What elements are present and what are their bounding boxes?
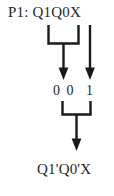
result-expression-label: Q1'Q0'X xyxy=(37,162,91,177)
upper-merge-bracket xyxy=(49,25,79,44)
mid-left-values-label: 0 0 xyxy=(53,84,75,98)
mid-right-value-label: 1 xyxy=(86,84,93,98)
lower-merge-arrow xyxy=(72,115,82,152)
diagram-canvas: P1: Q1Q0X 0 0 1 Q1'Q0'X xyxy=(0,0,114,196)
straight-passthrough-arrow xyxy=(85,25,95,80)
lower-merge-bracket xyxy=(63,101,91,115)
upper-merge-arrow xyxy=(59,44,69,81)
